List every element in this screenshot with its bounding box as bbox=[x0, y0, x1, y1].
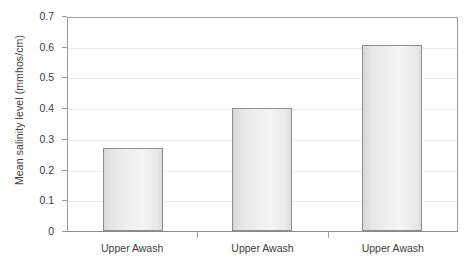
x-axis-label: Upper Awash bbox=[328, 242, 458, 255]
bar[interactable] bbox=[232, 108, 292, 231]
bar[interactable] bbox=[362, 45, 422, 231]
y-axis-label: 0.3 bbox=[18, 134, 62, 145]
bar-slot bbox=[327, 18, 457, 231]
bar-slot bbox=[198, 18, 328, 231]
y-axis-label: 0.4 bbox=[18, 103, 62, 114]
y-axis-label: 0 bbox=[18, 226, 62, 237]
y-axis-label: 0.7 bbox=[18, 11, 62, 22]
x-axis-tick bbox=[328, 232, 329, 238]
y-axis-label: 0.1 bbox=[18, 195, 62, 206]
x-axis-tick bbox=[197, 232, 198, 238]
bar-chart: Mean salinity level (mmhos/cm) 00.10.20.… bbox=[0, 0, 473, 271]
x-axis-label: Upper Awash bbox=[67, 242, 197, 255]
y-axis-label: 0.6 bbox=[18, 42, 62, 53]
bars-layer bbox=[68, 18, 457, 231]
x-axis-label: Upper Awash bbox=[197, 242, 327, 255]
bar[interactable] bbox=[103, 148, 163, 231]
y-axis-label: 0.2 bbox=[18, 165, 62, 176]
bar-slot bbox=[68, 18, 198, 231]
y-axis-label: 0.5 bbox=[18, 72, 62, 83]
